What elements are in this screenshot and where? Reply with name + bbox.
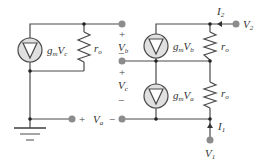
upper-source-label: gmVb bbox=[173, 40, 194, 54]
v1-label: V1 bbox=[205, 147, 215, 161]
lower-source-label: gmVa bbox=[173, 89, 194, 103]
circuit-diagram: gmVc ro gmVb ro gmVa ro + Vb − + Vc − + … bbox=[0, 0, 266, 162]
upper-current-source bbox=[144, 34, 168, 58]
vc-minus: − bbox=[118, 94, 124, 106]
left-current-source bbox=[18, 38, 42, 62]
left-resistor bbox=[78, 32, 90, 62]
upper-resistor-label: ro bbox=[221, 40, 229, 54]
v2-label: V2 bbox=[243, 18, 254, 32]
i2-label: I2 bbox=[216, 5, 225, 19]
wires bbox=[30, 24, 236, 140]
terminal-v2 bbox=[233, 21, 240, 28]
circuit-canvas: gmVc ro gmVb ro gmVa ro + Vb − + Vc − + … bbox=[0, 0, 266, 162]
ground-icon bbox=[14, 128, 46, 140]
i1-label: I1 bbox=[217, 120, 225, 134]
left-resistor-label: ro bbox=[94, 42, 102, 56]
left-top-wire bbox=[30, 24, 122, 38]
lower-resistor-label: ro bbox=[221, 87, 229, 101]
right-top-wire bbox=[156, 24, 236, 34]
left-source-label: gmVc bbox=[47, 44, 68, 58]
vb-plus: + bbox=[119, 28, 125, 40]
i2-arrow-icon bbox=[217, 21, 222, 27]
va-label: Va bbox=[93, 113, 104, 127]
va-plus: + bbox=[79, 113, 85, 125]
vc-plus: + bbox=[119, 66, 125, 78]
lower-current-source bbox=[144, 84, 168, 108]
terminal-va-plus bbox=[69, 116, 76, 123]
va-minus: − bbox=[109, 113, 115, 125]
lower-resistor bbox=[204, 82, 216, 108]
vc-label: Vc bbox=[118, 79, 129, 93]
i1-arrow-icon bbox=[207, 123, 213, 128]
terminal-vb-plus bbox=[119, 21, 126, 28]
vb-minus: − bbox=[118, 47, 124, 59]
upper-resistor bbox=[204, 32, 216, 60]
terminal-v1 bbox=[207, 137, 214, 144]
terminal-va-minus bbox=[119, 116, 126, 123]
